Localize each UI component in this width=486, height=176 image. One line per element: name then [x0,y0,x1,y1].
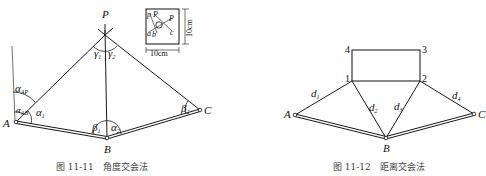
line-d1 [295,81,352,115]
label-beta-2: β2 [180,102,189,115]
label-a: A [2,117,10,129]
station-a [14,120,18,124]
corner-label-1: 1 [345,73,350,84]
arc-alpha-1 [28,111,32,124]
label-c: C [204,104,212,116]
label-d4: d4 [452,89,461,102]
station-c [198,108,202,112]
inset-label-p-upper: P [152,10,158,19]
station-b-2 [384,136,388,140]
label-d2: d2 [369,101,378,114]
label-c-2: C [478,108,486,120]
line-cp [105,35,200,110]
corner-label-2: 2 [422,73,427,84]
inset-label-p-right: P [168,14,174,23]
diagram-canvas: P A B C αAP αAB α1 β1 α2 β2 γ1 γ2 p P P … [0,0,486,176]
label-alpha-1: α1 [36,106,45,119]
label-alpha-2: α2 [111,121,120,134]
inset-error-triangle: p P P a b c 10cm 10cm [146,9,194,58]
label-d1: d1 [311,87,320,100]
building-rect [352,50,420,81]
inset-label-c: c [170,28,174,37]
line-d4 [420,81,474,114]
inset-circle [156,22,162,28]
caption-figure-11-12: 图 11-12 距离交会法 [333,161,425,172]
figure-distance-intersection: 4 3 1 2 A B C d1 d2 d3 d4 图 11-12 距离交会法 [283,44,486,172]
line-bp [105,30,107,138]
line-d3 [386,81,420,138]
station-c-2 [472,112,476,116]
line-cp-ext [105,28,113,35]
corner-label-3: 3 [422,44,427,55]
label-alpha-ab: αAB [16,105,28,116]
inset-label-a: a [147,29,151,38]
figure-angle-intersection: P A B C αAP αAB α1 β1 α2 β2 γ1 γ2 p P P … [2,8,212,172]
inset-label-p-small: p [146,10,151,19]
label-p: P [101,8,109,20]
label-b: B [104,143,111,155]
inset-width-label: 10cm [150,49,169,58]
traverse-ab-bottom-2 [295,117,386,140]
corner-label-4: 4 [345,44,350,55]
label-d3: d3 [394,100,403,113]
label-a-2: A [283,108,291,120]
traverse-bc-bottom [107,112,200,140]
line-ap [16,35,105,122]
station-b [105,136,109,140]
traverse-bc-bottom-2 [386,116,474,140]
caption-figure-11-11: 图 11-11 角度交会法 [56,161,148,172]
line-ap-ext [98,29,105,35]
label-gamma-1: γ1 [94,47,101,60]
traverse-ab-top-2 [295,114,386,137]
label-alpha-ap: αAP [15,82,28,95]
inset-height-label: 10cm [185,18,194,37]
station-a-2 [293,113,297,117]
label-b-2: B [383,142,390,154]
inset-label-b: b [152,30,156,39]
